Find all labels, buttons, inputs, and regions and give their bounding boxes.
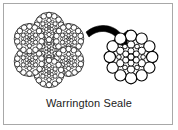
- rope-cross-section: [14, 12, 84, 88]
- single-strand-detail: [104, 30, 158, 84]
- figure-caption: Warrington Seale: [0, 97, 178, 109]
- warrington-seale-figure: Warrington Seale: [0, 0, 178, 130]
